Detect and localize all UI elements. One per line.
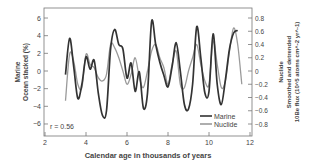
x-tick-label: 12 xyxy=(246,139,254,146)
right-y-tick-label: 0.6 xyxy=(255,28,264,35)
right-y-tick-label: 0.2 xyxy=(255,54,264,61)
x-ticks: 24681012 xyxy=(43,132,254,146)
left-y-tick-label: −4 xyxy=(33,103,41,110)
left-y-tick-label: 6 xyxy=(37,15,41,22)
right-y-axis-label: NuclideSmoothed and detrended10Be flux (… xyxy=(278,22,300,123)
right-y-tick-label: 0 xyxy=(255,68,259,75)
legend-nuclide: Nuclide xyxy=(214,121,237,128)
right-y-tick-label: −0.4 xyxy=(255,94,268,101)
series-marine xyxy=(66,20,238,118)
x-axis-label: Calendar age in thousands of years xyxy=(85,151,212,160)
right-y-tick-label: −0.2 xyxy=(255,81,268,88)
right-y-tick-label: 0.8 xyxy=(255,15,264,22)
left-y-tick-label: 4 xyxy=(37,32,41,39)
left-y-ticks: 6420−2−4−6 xyxy=(33,15,48,128)
left-y-tick-label: −6 xyxy=(33,120,41,127)
svg-text:Nuclide: Nuclide xyxy=(278,61,284,83)
svg-text:Smoothed and detrended: Smoothed and detrended xyxy=(286,36,292,109)
right-y-tick-label: 0.4 xyxy=(255,41,264,48)
left-y-tick-label: 2 xyxy=(37,50,41,57)
left-y-tick-label: 0 xyxy=(37,68,41,75)
left-y-axis-label: MarineOcean stacked (%) xyxy=(14,43,30,101)
svg-text:Marine: Marine xyxy=(14,61,21,82)
right-y-tick-label: −0.8 xyxy=(255,121,268,128)
svg-text:Ocean stacked (%): Ocean stacked (%) xyxy=(22,43,30,101)
x-tick-label: 6 xyxy=(125,139,129,146)
left-y-tick-label: −2 xyxy=(33,85,41,92)
r-annotation: r = 0.56 xyxy=(50,123,74,130)
x-tick-label: 2 xyxy=(43,139,47,146)
x-tick-label: 10 xyxy=(205,139,213,146)
legend: Marine Nuclide xyxy=(200,113,237,128)
x-tick-label: 8 xyxy=(166,139,170,146)
legend-marine: Marine xyxy=(214,113,236,120)
x-tick-label: 4 xyxy=(84,139,88,146)
svg-text:10Be flux (10^5 atoms cm^-2 yr: 10Be flux (10^5 atoms cm^-2 yr^-1) xyxy=(294,22,300,123)
right-y-ticks: 0.80.60.40.20−0.2−0.4−0.6−0.8 xyxy=(248,15,268,128)
data-lines xyxy=(66,20,242,118)
right-y-tick-label: −0.6 xyxy=(255,107,268,114)
chart: 6420−2−4−6 0.80.60.40.20−0.2−0.4−0.6−0.8… xyxy=(0,0,309,166)
